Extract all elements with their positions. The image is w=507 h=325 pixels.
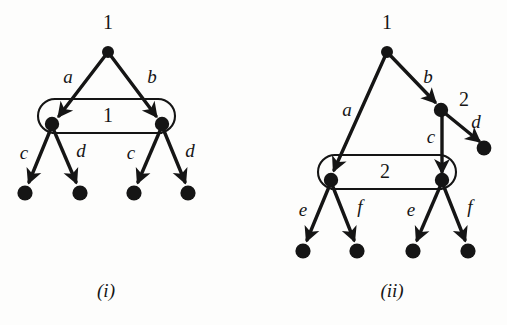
node-leaf-2-i (72, 185, 87, 200)
edge-label-d-right-i: d (185, 140, 195, 161)
caption-ii: (ii) (380, 280, 403, 302)
label-group-i: 1 (103, 104, 113, 126)
node-leaf-d-ii (477, 141, 492, 156)
edge-label-a-ii: a (342, 99, 352, 120)
edge-label-b-ii: b (423, 66, 433, 87)
edge-d-right-i (162, 126, 185, 182)
edge-label-e-left-ii: e (299, 199, 307, 220)
edge-e-right-ii (417, 182, 442, 240)
node-root-ii (381, 46, 393, 58)
edge-label-d-ii: d (471, 111, 481, 132)
node-group-right-i (155, 117, 169, 131)
edge-label-c-right-i: c (127, 142, 136, 163)
node-group-left-ii (324, 173, 338, 187)
edge-label-b-i: b (147, 66, 157, 87)
node-group-left-i (45, 117, 59, 131)
label-node-two-ii: 2 (459, 88, 469, 110)
edge-label-f-right-ii: f (467, 196, 475, 217)
label-root-i: 1 (103, 11, 113, 33)
figure-canvas: 1 a b 1 c d c d (i) (0, 0, 507, 325)
edge-f-right-ii (442, 182, 465, 240)
node-group-right-ii (435, 173, 449, 187)
node-two-ii (434, 103, 448, 117)
caption-i: (i) (97, 280, 115, 302)
node-root-i (102, 46, 114, 58)
edge-label-c-ii: c (427, 126, 436, 147)
label-root-ii: 1 (382, 11, 392, 33)
edge-f-left-ii (331, 182, 354, 240)
node-leaf-1-i (17, 185, 32, 200)
label-group-ii: 2 (380, 160, 390, 182)
edge-label-f-left-ii: f (357, 196, 365, 217)
edge-c-left-i (29, 126, 52, 182)
node-leaf-3-ii (405, 243, 420, 258)
panel-i: 1 a b 1 c d c d (i) (17, 11, 195, 303)
node-leaf-2-ii (349, 243, 364, 258)
panel-ii: 1 b 2 a d c 2 e f e f (ii) (295, 11, 491, 303)
edge-label-c-left-i: c (20, 142, 29, 163)
node-leaf-3-i (126, 185, 141, 200)
node-leaf-4-ii (460, 243, 475, 258)
edge-label-a-i: a (63, 66, 73, 87)
tree-diagram-svg: 1 a b 1 c d c d (i) (0, 0, 507, 325)
edge-e-left-ii (307, 182, 331, 240)
node-leaf-4-i (180, 185, 195, 200)
node-leaf-1-ii (295, 243, 310, 258)
edge-d-left-i (52, 126, 76, 182)
edge-label-d-left-i: d (76, 140, 86, 161)
edge-c-right-i (138, 126, 162, 182)
edge-label-e-right-ii: e (407, 199, 415, 220)
